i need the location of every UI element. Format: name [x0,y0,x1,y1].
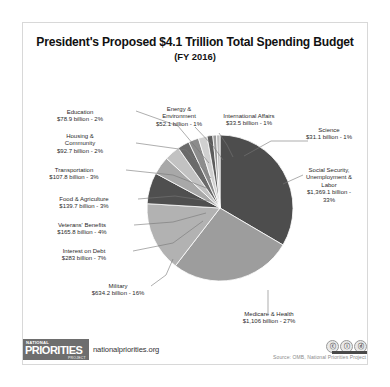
leader-military [151,259,173,286]
national-priorities-logo: NATIONAL PRIORITIES PROJECT [23,339,89,360]
label-transportation: Transportation $107.8 billion - 3% [29,167,119,182]
logo-main-text: PRIORITIES [23,345,89,356]
label-military: Military $634.2 billion - 16% [75,283,161,298]
source-credit: Source: OMB, National Priorities Project [273,354,366,360]
pie-slices [147,135,293,281]
chart-figure: President's Proposed $4.1 Trillion Total… [22,22,368,365]
label-science: Science $31.1 billion - 1% [291,127,367,142]
website-link[interactable]: nationalpriorities.org [93,345,159,354]
label-social-security: Social Security, Unemployment & Labor $1… [289,167,369,204]
label-housing: Housing & Community $92.7 billion - 2% [37,133,123,155]
creative-commons-badges: ⓒⓘⓓ [326,340,367,351]
chart-footer: NATIONAL PRIORITIES PROJECT nationalprio… [22,336,368,366]
label-international-affairs: International Affairs $33.5 billion - 1% [201,113,297,128]
label-medicare-health: Medicare & Health $1,106 billion - 27% [211,311,327,326]
label-food-agriculture: Food & Agriculture $139.7 billion - 3% [37,196,131,211]
logo-sub-text: PROJECT [23,356,89,360]
label-veterans-benefits: Veterans' Benefits $165.8 billion - 4% [37,222,127,237]
label-education: Education $78.9 billion - 2% [37,109,123,124]
label-interest-on-debt: Interest on Debt $283 billion - 7% [41,248,127,263]
